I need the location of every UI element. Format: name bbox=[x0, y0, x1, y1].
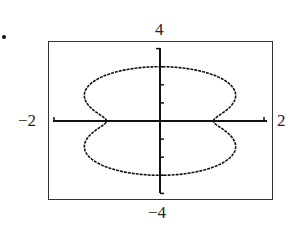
axes bbox=[53, 48, 267, 193]
plot-area bbox=[0, 0, 293, 226]
